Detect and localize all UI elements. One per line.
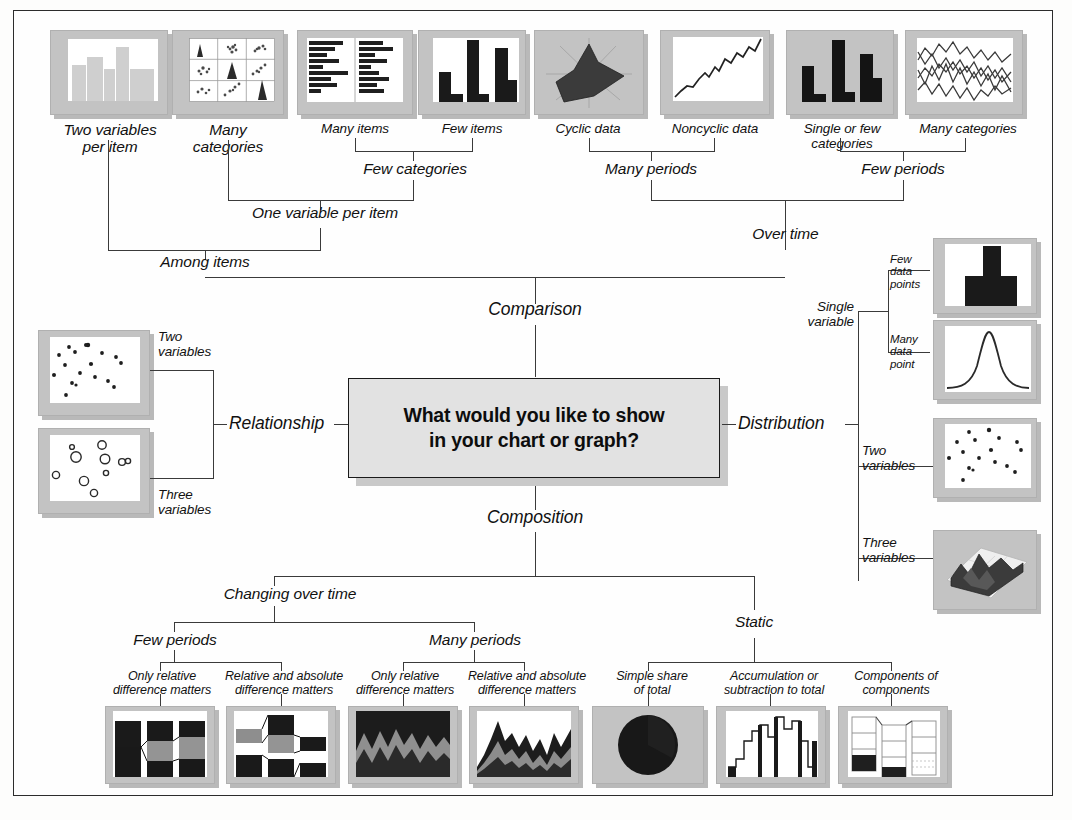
thumb-plot bbox=[726, 711, 818, 777]
connector bbox=[754, 638, 755, 662]
thumb-plot bbox=[68, 39, 158, 101]
connector bbox=[754, 576, 755, 610]
connector bbox=[281, 694, 282, 706]
connector bbox=[334, 424, 348, 425]
thumb-plot bbox=[50, 337, 140, 403]
thumbnail-line-chart-multi[interactable] bbox=[905, 30, 1023, 115]
label-two-variables-relationship: Two variables bbox=[158, 330, 228, 359]
thumbnail-column-chart[interactable] bbox=[418, 30, 526, 115]
label-components-of-components: Components of components bbox=[840, 670, 952, 697]
connector bbox=[413, 180, 414, 200]
label-accumulation-subtraction: Accumulation or subtraction to total bbox=[709, 670, 839, 697]
connector bbox=[160, 662, 282, 663]
thumb-plot bbox=[433, 38, 519, 102]
thumb-plot bbox=[534, 30, 644, 115]
connector bbox=[472, 138, 473, 151]
thumb-plot bbox=[673, 37, 763, 101]
label-three-variables-relationship: Three variables bbox=[158, 488, 228, 517]
thumbnail-column-chart-time[interactable] bbox=[786, 30, 894, 115]
thumbnail-table-with-embedded-charts[interactable] bbox=[172, 30, 284, 115]
label-few-items: Few items bbox=[418, 122, 526, 137]
thumbnail-bubble-chart[interactable] bbox=[38, 428, 150, 514]
thumb-plot bbox=[796, 38, 884, 102]
label-few-periods-comparison: Few periods bbox=[832, 161, 974, 178]
thumb-plot bbox=[933, 530, 1037, 610]
connector bbox=[228, 140, 229, 200]
label-single-or-few-categories: Single or few categories bbox=[772, 122, 912, 151]
connector bbox=[108, 250, 321, 251]
connector bbox=[722, 424, 736, 425]
thumb-plot bbox=[307, 38, 403, 102]
connector bbox=[174, 622, 474, 623]
center-question-box: What would you like to show in your char… bbox=[348, 378, 720, 478]
connector bbox=[474, 650, 475, 662]
thumbnail-waterfall-chart[interactable] bbox=[716, 706, 826, 784]
thumb-plot bbox=[848, 711, 940, 777]
label-only-relative-few: Only relative difference matters bbox=[106, 670, 218, 697]
thumbnail-pie-chart[interactable] bbox=[592, 706, 704, 784]
connector bbox=[174, 650, 175, 662]
connector bbox=[858, 311, 888, 312]
label-relative-absolute-many: Relative and absolute difference matters bbox=[462, 670, 592, 697]
thumbnail-bar-chart[interactable] bbox=[297, 30, 413, 115]
connector bbox=[150, 478, 214, 479]
thumbnail-stacked-area-chart[interactable] bbox=[469, 706, 579, 784]
connector bbox=[274, 576, 754, 577]
label-few-data-points: Few data points bbox=[890, 253, 934, 290]
connector bbox=[274, 606, 275, 622]
thumbnail-stacked-100-column-with-subcomponents[interactable] bbox=[838, 706, 948, 784]
label-changing-over-time: Changing over time bbox=[200, 586, 380, 603]
connector bbox=[891, 694, 892, 706]
connector bbox=[524, 694, 525, 706]
connector bbox=[205, 277, 785, 278]
thumb-plot bbox=[917, 38, 1013, 102]
connector bbox=[108, 140, 109, 250]
thumb-plot bbox=[945, 326, 1031, 392]
thumbnail-3d-area-chart[interactable] bbox=[933, 530, 1037, 610]
thumb-plot bbox=[945, 244, 1031, 306]
thumb-plot bbox=[113, 711, 207, 777]
label-single-variable: Single variable bbox=[768, 300, 854, 329]
thumbnail-scatter-chart-distribution[interactable] bbox=[933, 418, 1037, 498]
thumb-plot bbox=[477, 711, 571, 777]
label-static: Static bbox=[704, 614, 804, 631]
connector bbox=[845, 424, 859, 425]
connector bbox=[651, 180, 652, 200]
label-relative-absolute-few: Relative and absolute difference matters bbox=[219, 670, 349, 697]
thumbnail-stacked-column-chart[interactable] bbox=[226, 706, 336, 784]
connector bbox=[858, 311, 859, 581]
thumbnail-variable-width-column-chart[interactable] bbox=[50, 30, 168, 115]
connector bbox=[648, 662, 892, 663]
thumbnail-stacked-100-area-chart[interactable] bbox=[348, 706, 458, 784]
thumbnail-scatter-chart[interactable] bbox=[38, 330, 150, 416]
connector bbox=[840, 138, 841, 151]
label-simple-share-of-total: Simple share of total bbox=[596, 670, 708, 697]
thumbnail-circular-area-chart[interactable] bbox=[534, 30, 644, 115]
label-comparison: Comparison bbox=[470, 300, 600, 319]
thumbnail-column-histogram[interactable] bbox=[933, 238, 1037, 314]
label-few-periods-composition: Few periods bbox=[110, 632, 240, 649]
thumbnail-stacked-100-column-chart[interactable] bbox=[105, 706, 215, 784]
connector bbox=[320, 228, 321, 250]
label-many-categories-time: Many categories bbox=[908, 122, 1028, 137]
center-question-text: What would you like to show in your char… bbox=[403, 403, 664, 453]
label-among-items: Among items bbox=[130, 254, 280, 271]
label-distribution: Distribution bbox=[738, 414, 858, 433]
thumbnail-line-chart[interactable] bbox=[660, 30, 770, 115]
connector bbox=[714, 138, 715, 151]
label-only-relative-many: Only relative difference matters bbox=[349, 670, 461, 697]
label-two-variables-distribution: Two variables bbox=[862, 444, 934, 473]
label-cyclic-data: Cyclic data bbox=[530, 122, 646, 137]
label-over-time: Over time bbox=[718, 226, 853, 243]
label-three-variables-distribution: Three variables bbox=[862, 536, 934, 565]
label-many-items: Many items bbox=[300, 122, 410, 137]
chart-chooser-diagram: Two variables per item Many categories M… bbox=[0, 0, 1072, 820]
connector bbox=[651, 200, 904, 201]
thumb-plot bbox=[356, 711, 450, 777]
connector bbox=[535, 532, 536, 576]
thumbnail-line-histogram[interactable] bbox=[933, 320, 1037, 400]
thumb-plot bbox=[592, 706, 704, 784]
thumb-plot bbox=[234, 711, 328, 777]
connector bbox=[965, 138, 966, 151]
thumb-plot bbox=[189, 38, 275, 102]
